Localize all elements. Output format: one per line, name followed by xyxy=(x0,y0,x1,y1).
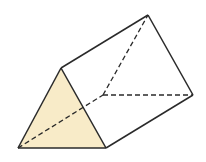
prism-diagram xyxy=(0,0,206,162)
edge-bottom-right xyxy=(106,95,193,148)
edge-top-ridge xyxy=(61,15,148,68)
edge-back-right xyxy=(148,15,193,95)
shaded-front-face xyxy=(18,68,106,148)
prism-svg xyxy=(0,0,206,162)
hidden-edge-back-vertical xyxy=(103,15,148,95)
